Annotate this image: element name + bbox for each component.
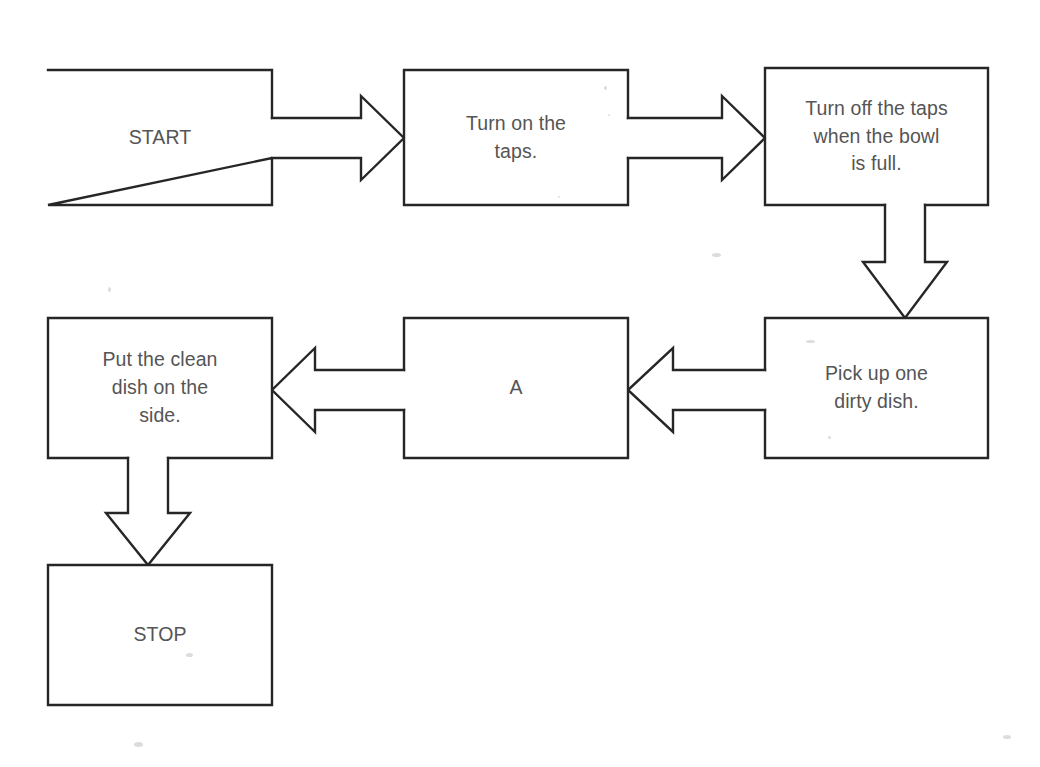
flowchart-svg — [0, 0, 1040, 767]
node-stop[interactable] — [48, 565, 272, 705]
node-pick-up-dish[interactable] — [765, 318, 988, 458]
node-start[interactable] — [48, 70, 272, 205]
connector-step-a-to-put-clean-dish — [272, 348, 404, 432]
node-turn-on-taps[interactable] — [404, 70, 628, 205]
flowchart-canvas: START Turn on the taps. Turn off the tap… — [0, 0, 1040, 767]
connector-turn-on-taps-to-turn-off-taps — [628, 96, 765, 180]
connector-pick-up-dish-to-step-a — [628, 348, 765, 432]
connector-turn-off-taps-to-pick-up-dish — [863, 205, 947, 318]
node-put-clean-dish[interactable] — [48, 318, 272, 458]
node-turn-off-taps[interactable] — [765, 68, 988, 205]
node-step-a[interactable] — [404, 318, 628, 458]
connector-put-clean-dish-to-stop — [106, 458, 190, 565]
connector-start-to-turn-on-taps — [272, 96, 404, 180]
